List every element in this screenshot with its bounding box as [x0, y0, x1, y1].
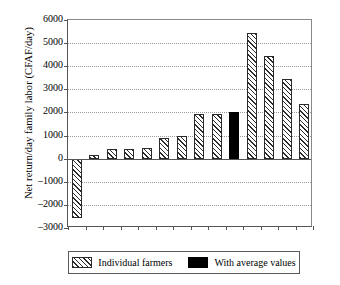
- x-tick-mark: [68, 226, 69, 230]
- bar: [124, 149, 134, 159]
- legend-entry: Individual farmers: [72, 257, 172, 268]
- y-tick-label: 5000: [17, 37, 63, 47]
- legend-entry: With average values: [188, 257, 295, 268]
- x-tick-mark: [86, 226, 87, 230]
- x-tick-mark: [191, 226, 192, 230]
- x-tick-mark: [313, 226, 314, 230]
- y-tick-mark: [64, 205, 68, 206]
- bar: [159, 138, 169, 158]
- y-tick-label: –1000: [17, 176, 63, 186]
- y-tick-mark: [64, 112, 68, 113]
- x-tick-mark: [261, 226, 262, 230]
- bar: [229, 112, 239, 159]
- y-tick-mark: [64, 43, 68, 44]
- bar: [72, 159, 82, 218]
- x-tick-mark: [138, 226, 139, 230]
- y-tick-mark: [64, 66, 68, 67]
- y-tick-label: 2000: [17, 106, 63, 116]
- y-tick-label: 3000: [17, 83, 63, 93]
- bar: [177, 136, 187, 159]
- bar: [264, 56, 274, 159]
- y-tick-mark: [64, 182, 68, 183]
- y-tick-mark: [64, 89, 68, 90]
- y-tick-mark: [64, 136, 68, 137]
- bar: [282, 79, 292, 158]
- zero-baseline: [64, 159, 311, 160]
- x-tick-mark: [156, 226, 157, 230]
- x-tick-mark: [121, 226, 122, 230]
- hatched-swatch: [72, 257, 92, 268]
- x-tick-mark: [208, 226, 209, 230]
- chart-legend: Individual farmersWith average values: [68, 251, 300, 274]
- solid-black-swatch: [188, 257, 208, 268]
- gridline: [68, 136, 311, 137]
- gridline: [68, 66, 311, 67]
- gridline: [68, 43, 311, 44]
- x-tick-mark: [296, 226, 297, 230]
- bar: [142, 148, 152, 159]
- bar: [194, 114, 204, 158]
- bar: [107, 149, 117, 159]
- bar: [299, 104, 309, 159]
- x-tick-mark: [103, 226, 104, 230]
- x-tick-mark: [243, 226, 244, 230]
- gridline: [68, 182, 311, 183]
- gridline: [68, 89, 311, 90]
- y-tick-label: 6000: [17, 14, 63, 24]
- x-tick-mark: [278, 226, 279, 230]
- legend-label: Individual farmers: [98, 257, 172, 268]
- gridline: [68, 112, 311, 113]
- y-tick-label: 1000: [17, 130, 63, 140]
- x-tick-mark: [226, 226, 227, 230]
- bar: [212, 114, 222, 159]
- y-tick-mark: [64, 20, 68, 21]
- y-tick-label: –3000: [17, 222, 63, 232]
- gridline: [68, 205, 311, 206]
- bar-chart: Net return/day family labor (CFAF/day) 6…: [0, 0, 340, 285]
- y-tick-label: 0: [17, 153, 63, 163]
- plot-inner: [68, 20, 311, 226]
- y-tick-label: 4000: [17, 60, 63, 70]
- plot-area: [67, 19, 312, 227]
- bar: [247, 33, 257, 159]
- legend-label: With average values: [214, 257, 295, 268]
- y-tick-label: –2000: [17, 199, 63, 209]
- x-tick-mark: [173, 226, 174, 230]
